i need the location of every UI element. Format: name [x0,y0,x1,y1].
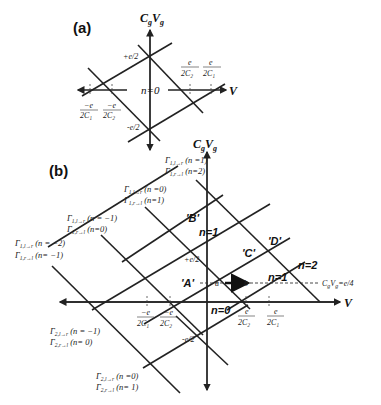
svg-text:e: e [188,58,192,67]
panel-b-dashed-line-label: CgVg=e/4 [322,279,353,289]
panel-a-minus-e2: -e/2 [127,123,139,132]
panel-a: (a) CgVg V +e/2 -e/2 n=0 −e 2C₁ −e 2C₂ [73,11,238,150]
point-D-label: 'D' [268,235,282,247]
panel-a-y-axis-label: CgVg [140,11,164,27]
panel-a-tick-right-2: e 2C₁ [203,58,221,78]
panel-b: (b) CgVg V CgVg=e/4 a b +e/2 -e/2 n=1 [14,137,353,393]
svg-text:Γ2,r→l (n= 1): Γ2,r→l (n= 1) [95,382,138,393]
panel-b-region-n1-right: n=1 [268,271,287,283]
point-C-label: 'C' [242,247,256,259]
svg-text:2C₂: 2C₂ [238,318,250,327]
svg-text:2C₂: 2C₂ [160,319,172,328]
panel-a-x-axis-label: V [229,84,238,98]
gamma-label-1-n-minus2: Γ1,l→r (n = −2) Γ1,r→l (n= −1) [14,238,65,261]
svg-text:e: e [245,307,249,316]
svg-text:e: e [209,58,213,67]
panel-b-label: (b) [49,162,68,179]
point-a-small: a [215,279,219,288]
panel-b-tick-right-2: e 2C₁ [267,307,284,327]
svg-text:2C₁: 2C₁ [203,69,215,78]
svg-text:2C₂: 2C₂ [103,111,115,120]
svg-text:Γ1,l→r (n = −2): Γ1,l→r (n = −2) [14,238,65,249]
panel-b-region-n2: n=2 [298,259,317,271]
panel-b-rising-line-4 [227,262,305,310]
svg-text:Γ1,r→l (n= −1): Γ1,r→l (n= −1) [14,250,63,261]
svg-text:e: e [274,307,278,316]
panel-a-plus-e2: +e/2 [123,52,138,61]
gamma-label-2-n0: Γ2,l→r (n =0) Γ2,r→l (n= 1) [95,371,138,393]
svg-text:Γ1,l→r (n =0): Γ1,l→r (n =0) [123,184,166,195]
gamma-label-1-n1: Γ1,l→r (n =1) Γ1,r→l (n=2) [164,155,207,177]
svg-text:2C₂: 2C₂ [181,69,193,78]
gamma-label-1-n0: Γ1,l→r (n =0) Γ1,r→l (n=1) [123,184,166,206]
panel-b-y-axis-label: CgVg [193,137,217,153]
panel-b-tick-left-1: −e 2C₁ [137,308,154,328]
panel-b-tick-left-2: −e 2C₂ [160,308,177,328]
point-b-small: b [244,279,248,288]
point-B-label: 'B' [186,212,200,224]
panel-a-tick-left-2: −e 2C₂ [103,101,121,120]
svg-text:−e: −e [141,308,150,317]
panel-a-region-n0: n=0 [141,84,160,96]
panel-b-minus-e2: -e/2 [182,335,194,344]
svg-text:Γ1,r→l (n=2): Γ1,r→l (n=2) [164,166,205,177]
gamma-label-1-n-minus1: Γ1,l→r (n = −1) Γ1,r→l (n=0) [66,213,117,235]
svg-text:2C₁: 2C₁ [267,318,279,327]
panel-a-tick-left-1: −e 2C₁ [80,101,98,120]
svg-text:Γ2,l→r (n = −1): Γ2,l→r (n = −1) [49,326,100,337]
svg-text:−e: −e [164,308,173,317]
svg-text:2C₁: 2C₁ [80,111,92,120]
svg-text:Γ1,r→l (n=0): Γ1,r→l (n=0) [66,224,107,235]
svg-text:−e: −e [84,101,93,110]
svg-text:Γ2,r→l (n= 0): Γ2,r→l (n= 0) [49,337,92,348]
panel-b-plus-e2: +e/2 [184,255,199,264]
panel-a-tick-right-1: e 2C₂ [181,58,199,78]
svg-text:−e: −e [107,101,116,110]
point-A-label: 'A' [181,277,195,289]
panel-b-region-n0: n=0 [211,304,231,316]
gamma-label-2-n-minus1: Γ2,l→r (n = −1) Γ2,r→l (n= 0) [49,326,100,348]
svg-text:Γ2,l→r (n =0): Γ2,l→r (n =0) [95,371,138,382]
panel-b-region-n1-upper: n=1 [199,226,218,238]
panel-a-label: (a) [73,19,91,36]
svg-text:2C₁: 2C₁ [137,319,149,328]
svg-text:Γ1,l→r (n =1): Γ1,l→r (n =1) [164,155,207,166]
svg-text:Γ1,l→r (n = −1): Γ1,l→r (n = −1) [66,213,117,224]
panel-b-x-axis-label: V [344,296,353,310]
coulomb-diamond-diagram: (a) CgVg V +e/2 -e/2 n=0 −e 2C₁ −e 2C₂ [0,0,381,405]
